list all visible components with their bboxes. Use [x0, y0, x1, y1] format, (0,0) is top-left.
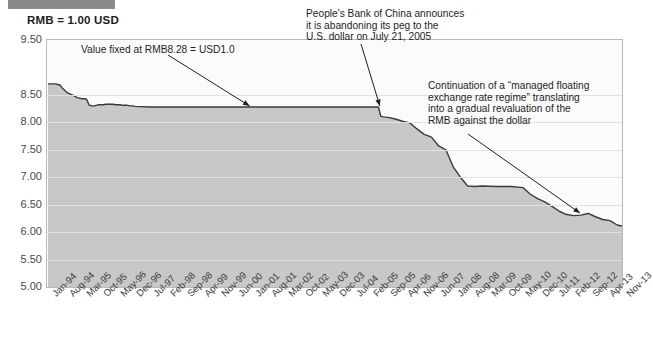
y-tick-label: 6.00 [21, 225, 42, 237]
gridline [47, 177, 622, 178]
x-axis: Jan-94Aug-94Mar-95Oct-95May-96Dec-96Jul-… [46, 289, 623, 349]
area-series-svg [47, 40, 622, 287]
y-tick-label: 6.50 [21, 198, 42, 210]
y-tick-label: 7.50 [21, 143, 42, 155]
redacted-top-bar [8, 0, 115, 9]
y-tick-label: 7.00 [21, 170, 42, 182]
y-tick-label: 8.00 [21, 115, 42, 127]
y-tick-label: 9.50 [21, 33, 42, 45]
plot-area [46, 39, 623, 288]
bottom-strip [0, 343, 636, 349]
gridline [47, 205, 622, 206]
annotation-peg-abandoned: People's Bank of China announces it is a… [306, 8, 464, 43]
gridline [47, 232, 622, 233]
gridline [47, 150, 622, 151]
annotation-fixed-peg: Value fixed at RMB8.28 = USD1.0 [81, 44, 235, 56]
y-tick-label: 8.50 [21, 88, 42, 100]
y-tick-label: 5.00 [21, 280, 42, 292]
y-tick-label: 5.50 [21, 253, 42, 265]
annotation-managed-float: Continuation of a “managed floating exch… [428, 80, 589, 126]
y-axis: 9.508.508.007.507.006.506.005.505.00 [0, 39, 42, 288]
page-title: RMB = 1.00 USD [27, 14, 119, 26]
gridline [47, 260, 622, 261]
